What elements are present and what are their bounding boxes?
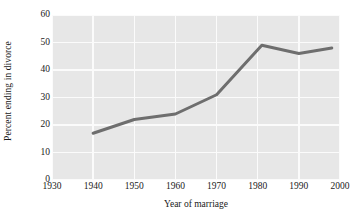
x-axis-tick-labels: 19301940195019601970198019902000 — [0, 182, 360, 198]
x-tick-label: 1930 — [32, 182, 72, 192]
divorce-rate-line-chart: Percent ending in divorce 0102030405060 … — [0, 0, 360, 218]
y-tick-label: 10 — [18, 148, 50, 158]
x-tick-label: 1950 — [114, 182, 154, 192]
plot-area — [52, 15, 340, 180]
series-line-divorce — [93, 45, 332, 133]
y-tick-label: 40 — [18, 65, 50, 75]
y-tick-label: 60 — [18, 10, 50, 20]
y-tick-label: 50 — [18, 38, 50, 48]
x-tick-label: 1970 — [197, 182, 237, 192]
y-tick-label: 20 — [18, 120, 50, 130]
y-axis-title-text: Percent ending in divorce — [3, 41, 13, 141]
y-tick-label: 30 — [18, 93, 50, 103]
x-tick-label: 1940 — [73, 182, 113, 192]
x-tick-label: 1960 — [155, 182, 195, 192]
x-tick-label: 2000 — [320, 182, 360, 192]
x-tick-label: 1990 — [279, 182, 319, 192]
y-axis-title: Percent ending in divorce — [0, 0, 16, 182]
x-axis-title: Year of marriage — [52, 199, 340, 209]
series-layer — [52, 15, 340, 180]
x-tick-label: 1980 — [238, 182, 278, 192]
